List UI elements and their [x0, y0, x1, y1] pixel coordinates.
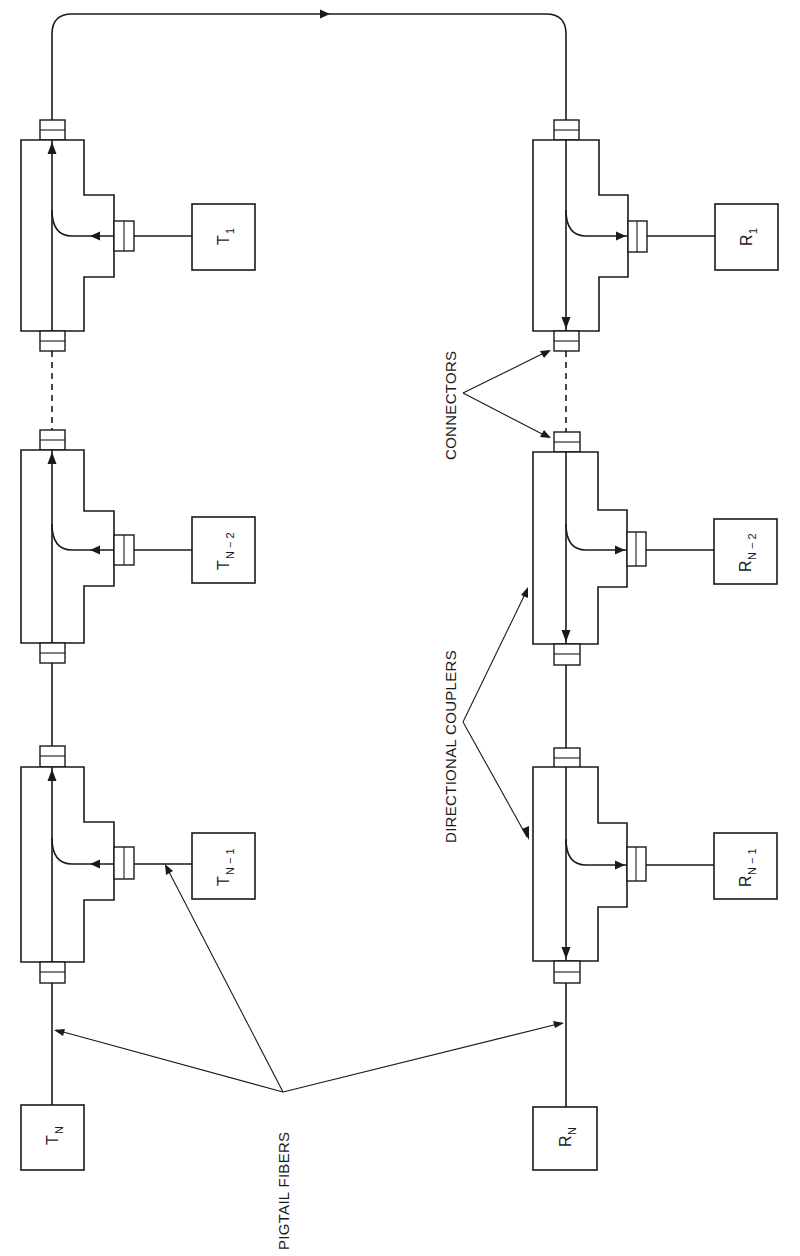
directional-coupler-rn-1 — [533, 748, 646, 983]
transmitter-tn-1: T N − 1 — [192, 833, 255, 899]
directional-coupler-r1 — [533, 120, 647, 351]
svg-text:1: 1 — [747, 228, 759, 234]
directional-coupler-tn-1 — [21, 746, 134, 983]
bus-fiber-top — [52, 10, 566, 121]
callout-directional-couplers: DIRECTIONAL COUPLERS — [442, 587, 529, 843]
fiber-bus-diagram: T 1 T N − 2 — [0, 0, 800, 1256]
svg-text:DIRECTIONAL COUPLERS: DIRECTIONAL COUPLERS — [442, 650, 459, 843]
svg-text:N − 1: N − 1 — [224, 848, 236, 875]
svg-text:PIGTAIL FIBERS: PIGTAIL FIBERS — [275, 1132, 292, 1250]
svg-text:N − 2: N − 2 — [746, 533, 758, 560]
svg-text:R: R — [737, 560, 754, 572]
svg-text:1: 1 — [224, 228, 236, 234]
svg-text:R: R — [557, 1135, 574, 1147]
svg-text:N: N — [53, 1126, 65, 1134]
arrow-icon — [320, 10, 330, 19]
svg-text:T: T — [215, 876, 232, 886]
svg-text:R: R — [738, 234, 755, 246]
callout-pigtail-fibers: PIGTAIL FIBERS — [54, 864, 564, 1250]
transmitter-t1: T 1 — [192, 204, 255, 270]
receiver-r1: R 1 — [715, 204, 778, 270]
callout-connectors: CONNECTORS — [442, 350, 551, 460]
directional-coupler-rn-2 — [533, 432, 646, 665]
svg-text:T: T — [215, 235, 232, 245]
svg-text:T: T — [215, 560, 232, 570]
directional-coupler-tn-2 — [21, 430, 134, 663]
svg-text:CONNECTORS: CONNECTORS — [442, 351, 459, 460]
svg-text:N − 2: N − 2 — [224, 532, 236, 559]
receiver-rn-2: R N − 2 — [714, 519, 777, 584]
receiver-rn: R N — [533, 1107, 597, 1170]
svg-text:N − 1: N − 1 — [746, 848, 758, 875]
svg-text:T: T — [44, 1135, 61, 1145]
receiver-rn-1: R N − 1 — [714, 833, 777, 899]
svg-text:R: R — [737, 875, 754, 887]
transmitter-tn-2: T N − 2 — [192, 517, 255, 583]
transmitter-tn: T N — [21, 1105, 84, 1170]
svg-text:N: N — [566, 1127, 578, 1135]
directional-coupler-t1 — [21, 120, 134, 351]
